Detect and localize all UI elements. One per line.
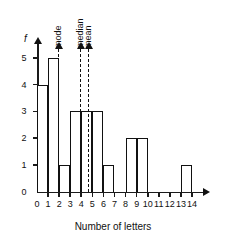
- x-tick-mark: [125, 193, 127, 197]
- y-tick-label: 0: [18, 187, 30, 197]
- histogram-bar: [126, 138, 137, 192]
- x-tick-mark: [103, 193, 105, 197]
- statistic-marker-line: [58, 49, 59, 192]
- y-axis-arrowhead: [34, 37, 42, 44]
- x-axis-title: Number of letters: [0, 221, 226, 232]
- histogram-bar: [59, 165, 70, 192]
- x-tick-mark: [147, 193, 149, 197]
- histogram-bar: [181, 165, 192, 192]
- x-tick-label: 14: [185, 199, 199, 209]
- x-tick-mark: [180, 193, 182, 197]
- x-tick-mark: [69, 193, 71, 197]
- x-tick-mark: [191, 193, 193, 197]
- x-tick-mark: [169, 193, 171, 197]
- histogram-bar: [81, 111, 92, 192]
- histogram-bar: [92, 111, 103, 192]
- y-tick-label: 3: [18, 106, 30, 116]
- x-tick-mark: [92, 193, 94, 197]
- histogram-bar: [37, 85, 48, 192]
- x-tick-mark: [158, 193, 160, 197]
- y-axis-title: f: [24, 33, 27, 44]
- statistic-marker-line: [88, 49, 89, 192]
- statistic-marker-line: [80, 49, 81, 192]
- histogram-bar: [137, 138, 148, 192]
- y-tick-mark: [33, 57, 38, 59]
- statistic-marker-label: mode: [54, 25, 63, 48]
- x-tick-mark: [47, 193, 49, 197]
- y-tick-label: 5: [18, 53, 30, 63]
- histogram-chart: f Number of letters 012345 0123456789101…: [0, 0, 226, 242]
- x-axis-arrowhead: [203, 188, 210, 196]
- x-tick-mark: [114, 193, 116, 197]
- y-tick-label: 1: [18, 160, 30, 170]
- histogram-bar: [103, 165, 114, 192]
- x-tick-mark: [136, 193, 138, 197]
- x-tick-mark: [80, 193, 82, 197]
- y-tick-label: 2: [18, 133, 30, 143]
- statistic-marker-label: mean: [84, 25, 93, 48]
- y-tick-label: 4: [18, 80, 30, 90]
- x-tick-mark: [58, 193, 60, 197]
